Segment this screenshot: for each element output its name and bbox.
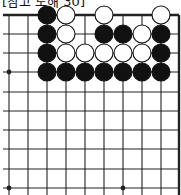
black-stone-icon	[38, 63, 56, 81]
white-stone-icon	[57, 25, 75, 43]
black-stone-icon	[152, 25, 170, 43]
black-stone-icon	[114, 25, 132, 43]
white-stone-icon	[57, 6, 75, 24]
black-stone-icon	[152, 44, 170, 62]
black-stone-icon	[152, 63, 170, 81]
white-stone-icon	[95, 44, 113, 62]
black-stone-icon	[38, 6, 56, 24]
white-stone-icon	[57, 44, 75, 62]
go-board	[0, 0, 181, 195]
black-stone-icon	[38, 25, 56, 43]
white-stone-icon	[114, 44, 132, 62]
white-stone-icon	[95, 6, 113, 24]
white-stone-icon	[152, 6, 170, 24]
black-stone-icon	[38, 44, 56, 62]
white-stone-icon	[76, 44, 94, 62]
star-point-icon	[121, 186, 126, 191]
white-stone-icon	[133, 44, 151, 62]
white-stone-icon	[133, 25, 151, 43]
black-stone-icon	[95, 25, 113, 43]
black-stone-icon	[57, 63, 75, 81]
black-stone-icon	[133, 63, 151, 81]
black-stone-icon	[95, 63, 113, 81]
star-point-icon	[7, 70, 12, 75]
star-point-icon	[7, 186, 12, 191]
black-stone-icon	[114, 63, 132, 81]
black-stone-icon	[76, 63, 94, 81]
